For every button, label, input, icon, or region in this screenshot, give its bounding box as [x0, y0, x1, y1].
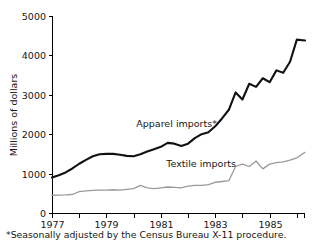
y-axis-tick-label: 5000: [22, 11, 46, 22]
chart-figure: 010002000300040005000 197719791981198319…: [0, 0, 317, 246]
imports-line-chart: 010002000300040005000 197719791981198319…: [0, 0, 317, 246]
y-axis-tick-label: 1000: [22, 169, 46, 180]
y-axis-tick-label: 4000: [22, 50, 46, 61]
y-axis-title: Millions of dollars: [8, 74, 19, 157]
textile-series-label: Textile imports: [165, 158, 236, 169]
y-axis-tick-label: 3000: [22, 90, 46, 101]
apparel-series-label: Apparel imports*: [136, 118, 217, 129]
y-axis-tick-label: 2000: [22, 129, 46, 140]
y-axis-tick-label: 0: [40, 208, 46, 219]
chart-footnote: *Seasonally adjusted by the Census Burea…: [6, 229, 286, 240]
